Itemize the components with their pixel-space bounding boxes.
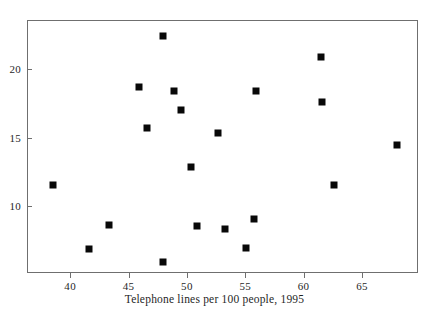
x-tick-label: 45 [123, 281, 135, 292]
data-point [215, 130, 222, 137]
data-point [85, 246, 92, 253]
data-point [160, 33, 167, 40]
data-point [243, 245, 250, 252]
plot-data-area [28, 21, 417, 272]
data-point [144, 124, 151, 131]
y-tick [27, 138, 32, 139]
data-point [330, 182, 337, 189]
y-tick-label: 10 [9, 200, 21, 211]
data-point [251, 216, 258, 223]
data-point [222, 225, 229, 232]
x-tick-label: 65 [356, 281, 368, 292]
x-tick-label: 40 [64, 281, 76, 292]
data-point [188, 164, 195, 171]
scatter-plot-figure: 404550556065 101520 Telephone lines per … [0, 0, 429, 310]
y-tick-label: 15 [9, 132, 21, 143]
data-point [252, 87, 259, 94]
data-point [49, 182, 56, 189]
x-tick [129, 273, 130, 278]
data-point [393, 142, 400, 149]
y-tick [27, 69, 32, 70]
data-point [170, 87, 177, 94]
x-tick [187, 273, 188, 278]
data-point [105, 221, 112, 228]
data-point [319, 98, 326, 105]
x-tick-label: 50 [181, 281, 193, 292]
x-tick [245, 273, 246, 278]
x-tick [70, 273, 71, 278]
data-point [194, 223, 201, 230]
x-tick-label: 60 [298, 281, 310, 292]
data-point [177, 106, 184, 113]
plot-frame [27, 20, 418, 273]
data-point [135, 83, 142, 90]
x-axis-label: Telephone lines per 100 people, 1995 [0, 293, 429, 305]
data-point [160, 258, 167, 265]
x-tick [362, 273, 363, 278]
data-point [317, 53, 324, 60]
x-tick [304, 273, 305, 278]
x-tick-label: 55 [239, 281, 251, 292]
y-tick-label: 20 [9, 64, 21, 75]
y-tick [27, 206, 32, 207]
